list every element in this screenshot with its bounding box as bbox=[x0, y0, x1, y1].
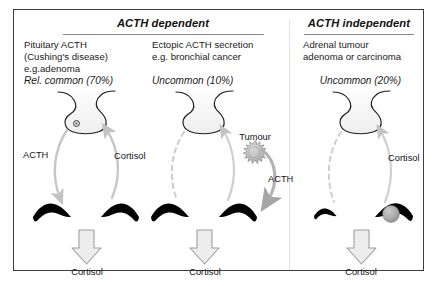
col3-cortisol-output-arrow bbox=[347, 230, 376, 264]
col1-graphic bbox=[33, 91, 139, 264]
col2-cortisol-output-arrow bbox=[190, 230, 219, 264]
col3-pituitary-gland-icon bbox=[333, 91, 390, 134]
col1-acth-arrow bbox=[55, 130, 67, 198]
col1-pituitary-gland-icon bbox=[58, 91, 115, 134]
diagram-graphics bbox=[14, 10, 425, 272]
col3-adrenal-tumour bbox=[383, 206, 400, 223]
col3-cortisol-feedback-arrow bbox=[380, 130, 391, 202]
col3-output-label: Cortisol bbox=[320, 267, 402, 277]
col3-graphic bbox=[314, 91, 413, 264]
col1-cortisol-feedback-arrow bbox=[106, 129, 118, 198]
col1-cortisol-output-arrow bbox=[72, 230, 101, 264]
col2-suppressed-acth-arrow bbox=[172, 132, 184, 200]
diagram-frame: ACTH dependent ACTH independent Pituitar… bbox=[13, 9, 424, 271]
cushings-syndrome-causes-diagram: ACTH dependent ACTH independent Pituitar… bbox=[0, 0, 440, 286]
col2-pituitary-gland-icon bbox=[176, 91, 233, 134]
col3-cortisol-label: Cortisol bbox=[388, 153, 420, 163]
col2-graphic bbox=[151, 91, 275, 264]
col2-tumour-acth-label: ACTH bbox=[268, 174, 293, 184]
col2-adrenal-right bbox=[219, 204, 257, 222]
col2-adrenal-left bbox=[151, 204, 189, 222]
col1-acth-label: ACTH bbox=[23, 150, 48, 160]
col1-adrenal-right bbox=[101, 204, 139, 222]
col1-adrenal-left bbox=[33, 204, 71, 222]
col1-cortisol-label: Cortisol bbox=[114, 151, 146, 161]
col2-output-label: Cortisol bbox=[164, 267, 246, 277]
col1-output-label: Cortisol bbox=[46, 267, 128, 277]
col2-tumour-label: Tumour bbox=[224, 132, 286, 142]
col3-adrenal-left-atrophic bbox=[314, 208, 337, 219]
col3-suppressed-acth-arrow bbox=[329, 132, 341, 202]
